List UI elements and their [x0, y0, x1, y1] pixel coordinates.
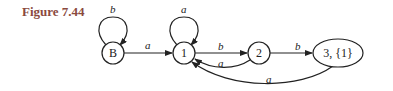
node-2: 2: [248, 42, 270, 64]
node-label: B: [109, 46, 117, 60]
node-label: 3, {1}: [323, 46, 353, 60]
node-3: 3, {1}: [313, 39, 363, 67]
node-label: 1: [181, 46, 187, 60]
edge-2-3: b: [270, 40, 312, 53]
edge-label: b: [218, 40, 224, 52]
edge-label: a: [181, 3, 187, 15]
edge-3-1: a: [192, 62, 333, 85]
edge-label: b: [295, 40, 301, 52]
edge-2-1: a: [195, 57, 250, 69]
edge-B-B: b: [99, 3, 127, 45]
edge-1-2: b: [195, 40, 247, 53]
edge-label: a: [218, 57, 224, 69]
edge-B-1: a: [124, 39, 172, 53]
node-B: B: [102, 42, 124, 64]
node-label: 2: [256, 46, 262, 60]
state-diagram: b a a b a b a B 1 2 3,: [0, 0, 393, 91]
node-1: 1: [173, 42, 195, 64]
edge-label: a: [145, 39, 151, 51]
edge-label: a: [266, 73, 272, 85]
edge-label: b: [110, 3, 116, 15]
edge-1-1: a: [170, 3, 198, 45]
